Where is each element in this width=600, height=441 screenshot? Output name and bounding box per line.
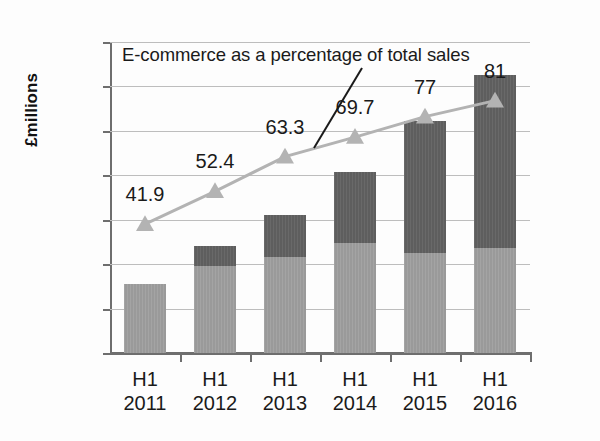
x-axis-label-line2: 2016 — [450, 392, 540, 416]
gridline — [110, 264, 530, 265]
callout-leader-line — [300, 66, 380, 152]
gridline — [110, 220, 530, 221]
y-axis-tick — [103, 131, 110, 133]
y-axis-tick — [103, 175, 110, 177]
percentage-data-label: 52.4 — [180, 151, 250, 171]
bar-segment-lower — [124, 284, 166, 353]
y-axis-tick — [103, 42, 110, 44]
x-axis-tick — [460, 353, 462, 362]
bar-segment-lower — [474, 248, 516, 353]
x-axis-label-line1: H1 — [450, 368, 540, 392]
percentage-data-label: 41.9 — [110, 184, 180, 204]
callout-annotation-text: E-commerce as a percentage of total sale… — [122, 44, 470, 66]
x-axis-tick — [250, 353, 252, 362]
bar-segment-upper — [404, 121, 446, 253]
bar-segment-lower — [194, 266, 236, 353]
x-axis-tick — [320, 353, 322, 362]
x-axis-tick — [530, 353, 532, 362]
bar-segment-lower — [264, 257, 306, 353]
y-axis-tick — [103, 309, 110, 311]
bar-h1-2012[interactable] — [194, 42, 236, 353]
x-axis-label-2016: H12016 — [450, 368, 540, 415]
bar-segment-lower — [334, 243, 376, 353]
bar-segment-upper — [474, 75, 516, 248]
percentage-data-label: 81 — [460, 61, 530, 81]
percentage-data-label: 77 — [390, 77, 460, 97]
y-axis-title: £millions — [22, 40, 42, 180]
y-axis-tick — [103, 86, 110, 88]
bar-segment-lower — [404, 253, 446, 353]
bar-segment-upper — [264, 215, 306, 257]
y-axis-tick — [103, 264, 110, 266]
bar-segment-upper — [334, 172, 376, 243]
x-axis-tick — [180, 353, 182, 362]
chart-container: £millions 050100150200250300350 41.952.4… — [0, 0, 600, 441]
bar-segment-upper — [194, 246, 236, 266]
x-axis-tick — [390, 353, 392, 362]
gridline — [110, 309, 530, 310]
gridline — [110, 42, 530, 43]
y-axis-tick — [103, 220, 110, 222]
bar-h1-2016[interactable] — [474, 42, 516, 353]
y-axis-tick — [103, 353, 110, 355]
gridline — [110, 175, 530, 176]
